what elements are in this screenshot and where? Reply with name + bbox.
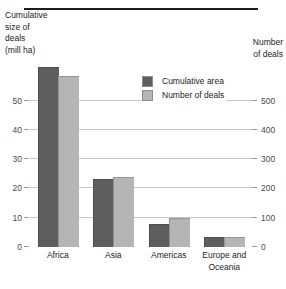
bar [224, 237, 245, 247]
left-tick-label: 0 [17, 243, 22, 252]
legend-swatch [142, 76, 153, 87]
left-tick-mark [24, 187, 29, 188]
bar-group [149, 8, 189, 247]
legend-item: Number of deals [142, 88, 224, 102]
category-label: Africa [30, 250, 86, 262]
left-tick-label: 20 [13, 184, 22, 193]
bar-chart-figure: Cumulative size of deals (mill ha) Numbe… [0, 0, 286, 289]
bar-group [204, 8, 244, 247]
right-tick-mark [252, 246, 257, 247]
legend-label: Number of deals [162, 90, 224, 100]
legend-item: Cumulative area [142, 74, 224, 88]
legend-swatch [142, 90, 153, 101]
category-label: Europe and Oceania [197, 250, 253, 273]
right-tick-mark [252, 129, 257, 130]
category-label: Americas [141, 250, 197, 262]
left-tick-label: 30 [13, 155, 22, 164]
bar [169, 218, 190, 247]
right-tick-label: 500 [261, 97, 275, 106]
bar [149, 224, 170, 247]
left-tick-mark [24, 246, 29, 247]
left-tick-mark [24, 129, 29, 130]
bar [38, 67, 59, 247]
right-tick-mark [252, 158, 257, 159]
right-tick-label: 0 [261, 243, 266, 252]
right-tick-label: 400 [261, 126, 275, 135]
left-tick-label: 10 [13, 214, 22, 223]
right-tick-label: 300 [261, 155, 275, 164]
category-labels: AfricaAsiaAmericasEurope and Oceania [30, 250, 252, 286]
bar [204, 237, 225, 247]
bar [58, 76, 79, 247]
right-tick-label: 100 [261, 214, 275, 223]
left-tick-mark [24, 217, 29, 218]
left-tick-label: 40 [13, 126, 22, 135]
x-axis-line [24, 8, 258, 10]
plot-area: 01020304050 0100200300400500 [30, 8, 252, 247]
right-tick-mark [252, 217, 257, 218]
chart-legend: Cumulative areaNumber of deals [141, 73, 226, 104]
bar [93, 179, 114, 247]
category-label: Asia [86, 250, 142, 262]
right-tick-label: 200 [261, 184, 275, 193]
left-tick-mark [24, 158, 29, 159]
left-tick-label: 50 [13, 97, 22, 106]
legend-label: Cumulative area [162, 76, 224, 86]
right-axis-title: Number of deals [251, 37, 283, 61]
bar-group [93, 8, 133, 247]
left-axis-title: Cumulative size of deals (mill ha) [5, 10, 50, 57]
bar [113, 177, 134, 247]
left-tick-mark [24, 100, 29, 101]
right-tick-mark [252, 100, 257, 101]
right-tick-mark [252, 187, 257, 188]
